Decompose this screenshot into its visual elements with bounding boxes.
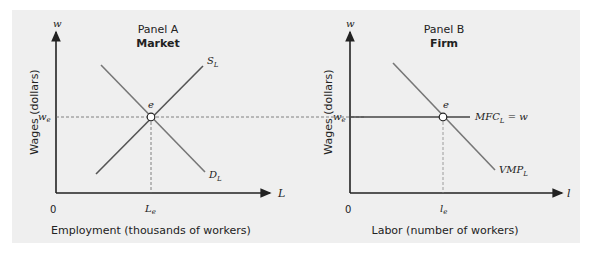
equilibrium-point: [439, 113, 447, 121]
vmp-label: VMPL: [499, 164, 528, 178]
mfc-label: MFCL = w: [474, 111, 528, 125]
labor-tick-label: le: [440, 203, 447, 216]
panel-a-subtitle: Market: [136, 37, 180, 50]
x-axis-symbol: L: [277, 187, 285, 200]
panel-a: Panel A Market w L 0 Wages (dollars) Emp…: [28, 18, 365, 237]
equilibrium-label: e: [148, 99, 154, 110]
supply-label: SL: [207, 55, 219, 69]
x-axis-label: Employment (thousands of workers): [51, 224, 251, 237]
origin-label: 0: [50, 204, 56, 215]
y-axis-symbol: w: [53, 18, 62, 29]
equilibrium-point: [147, 113, 155, 121]
x-axis-symbol: l: [567, 187, 571, 200]
demand-label: DL: [208, 169, 222, 183]
equilibrium-label: e: [443, 99, 449, 110]
employment-tick-label: Le: [144, 203, 156, 216]
panel-b: Panel B Firm w l 0 Wages (dollars) Labor…: [322, 18, 571, 237]
labor-market-diagram: Panel A Market w L 0 Wages (dollars) Emp…: [0, 0, 594, 255]
panel-b-subtitle: Firm: [430, 37, 458, 50]
y-axis-symbol: w: [346, 18, 355, 29]
x-axis-label: Labor (number of workers): [372, 224, 519, 237]
origin-label: 0: [345, 204, 351, 215]
panel-a-title: Panel A: [138, 23, 179, 36]
panel-b-title: Panel B: [424, 23, 465, 36]
